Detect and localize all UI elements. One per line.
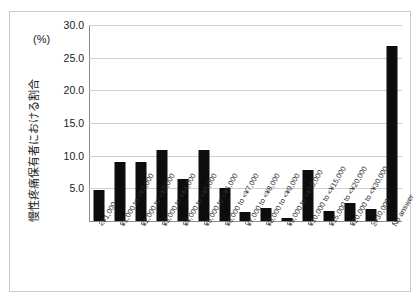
bar[interactable] <box>386 46 397 221</box>
y-tick-label: 25.0 <box>50 53 84 63</box>
chart-figure: (%) 慢性疼痛保有者における割合 30.025.020.015.010.05.… <box>0 0 420 305</box>
y-tick-label: 30.0 <box>50 20 84 30</box>
bar-slot <box>381 25 402 221</box>
x-axis-tick-labels: <¥1,000¥1,000 to <¥2,000¥2,000 to <¥3,00… <box>89 224 402 300</box>
y-tick-label: 15.0 <box>50 118 84 128</box>
y-tick-label: 5.0 <box>50 183 84 193</box>
bar-slot <box>110 25 131 221</box>
bar-slot <box>89 25 110 221</box>
y-tick-label: 20.0 <box>50 85 84 95</box>
y-axis-tick-labels: 30.025.020.015.010.05.0 <box>48 25 84 221</box>
y-tick-label: 10.0 <box>50 151 84 161</box>
y-axis-title: 慢性疼痛保有者における割合 <box>25 55 43 245</box>
